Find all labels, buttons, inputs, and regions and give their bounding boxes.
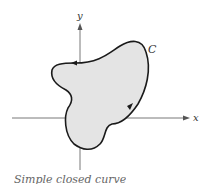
closed-curve-c [52,41,149,149]
y-axis-label: y [76,10,83,21]
curve-label: C [148,43,157,56]
diagram-canvas: y x C [0,0,202,184]
figure-caption: Simple closed curve [14,174,126,184]
x-axis-label: x [193,112,199,123]
